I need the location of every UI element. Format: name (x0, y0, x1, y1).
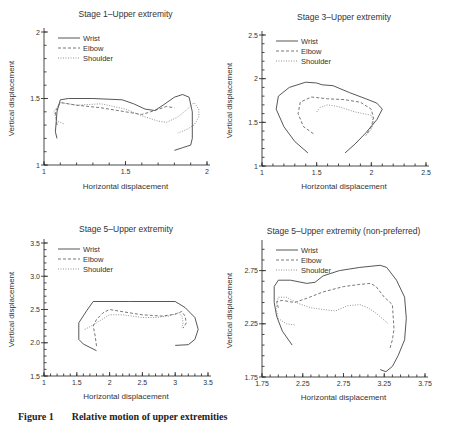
legend-label-shoulder: Shoulder (301, 57, 332, 66)
x-tick-label: 2 (205, 168, 209, 175)
x-tick-label: 2.25 (296, 380, 310, 387)
series-shoulder (85, 313, 183, 330)
y-tick-label: 3.0 (30, 273, 40, 280)
y-tick-label: 1 (254, 163, 258, 170)
legend-label-elbow: Elbow (301, 47, 322, 56)
series-wrist (276, 82, 382, 153)
x-tick-label: 1.5 (312, 169, 322, 176)
series-elbow (55, 103, 174, 126)
chart-title: Stage 5–Upper extremity (non-preferred) (267, 226, 421, 236)
y-tick-label: 1.75 (244, 374, 258, 381)
y-axis-label: Vertical displacement (7, 60, 16, 136)
y-tick-label: 2.75 (244, 267, 258, 274)
x-tick-label: 1.5 (121, 168, 131, 175)
chart-panel-4: Stage 5–Upper extremity (non-preferred)1… (225, 226, 432, 402)
series-wrist (55, 95, 192, 151)
x-tick-label: 1 (42, 168, 46, 175)
x-tick-label: 3.5 (203, 379, 213, 386)
y-tick-label: 2 (254, 75, 258, 82)
caption-label: Figure 1 (18, 411, 54, 422)
chart-title: Stage 1–Upper extremity (78, 9, 173, 19)
legend-label-shoulder: Shoulder (301, 266, 332, 275)
x-tick-label: 3 (173, 379, 177, 386)
legend-label-wrist: Wrist (301, 246, 319, 255)
x-axis-label: Horizontal displacement (83, 392, 169, 401)
y-tick-label: 2 (36, 29, 40, 36)
y-axis-label: Vertical displacement (225, 272, 234, 348)
series-elbow (298, 97, 373, 135)
legend-label-shoulder: Shoulder (83, 265, 114, 274)
y-tick-label: 1.5 (30, 95, 40, 102)
figure-caption: Figure 1Relative motion of upper extremi… (18, 411, 245, 422)
chart-title: Stage 3–Upper extremity (297, 12, 392, 22)
x-axis-label: Horizontal displacement (83, 182, 169, 191)
series-shoulder (276, 297, 388, 325)
legend-label-wrist: Wrist (301, 37, 319, 46)
x-tick-label: 1.75 (255, 380, 269, 387)
legend-label-wrist: Wrist (83, 34, 101, 43)
caption-text: Relative motion of upper extremities (72, 411, 228, 422)
chart-title: Stage 5–Upper extremity (79, 224, 174, 234)
x-tick-label: 2.5 (421, 169, 431, 176)
chart-panel-2: Stage 3–Upper extremity11.522.511.522.5H… (225, 12, 431, 191)
y-axis-label: Vertical displacement (7, 271, 16, 347)
y-tick-label: 2.5 (30, 306, 40, 313)
x-tick-label: 2.75 (337, 380, 351, 387)
legend-label-elbow: Elbow (83, 255, 104, 264)
x-tick-label: 1 (42, 379, 46, 386)
legend-label-elbow: Elbow (83, 44, 104, 53)
x-axis-label: Horizontal displacement (301, 182, 387, 191)
series-wrist (79, 302, 198, 351)
y-tick-label: 2.25 (244, 320, 258, 327)
y-tick-label: 2.5 (248, 32, 258, 39)
y-tick-label: 1 (36, 162, 40, 169)
x-tick-label: 1 (260, 169, 264, 176)
x-tick-label: 2 (108, 379, 112, 386)
y-tick-label: 1.5 (248, 119, 258, 126)
series-shoulder (54, 103, 199, 134)
legend-label-elbow: Elbow (301, 256, 322, 265)
y-tick-label: 3.5 (30, 240, 40, 247)
legend-label-wrist: Wrist (83, 245, 101, 254)
legend-label-shoulder: Shoulder (83, 54, 114, 63)
x-axis-label: Horizontal displacement (301, 393, 387, 402)
x-tick-label: 3.75 (418, 380, 432, 387)
x-tick-label: 3.25 (377, 380, 391, 387)
x-tick-label: 1.5 (72, 379, 82, 386)
series-shoulder (317, 105, 374, 135)
x-tick-label: 2 (369, 169, 373, 176)
series-wrist (274, 265, 406, 371)
x-tick-label: 2.5 (138, 379, 148, 386)
series-elbow (277, 283, 394, 348)
chart-panel-3: Stage 5–Upper extremity11.522.533.51.52.… (7, 224, 213, 401)
y-tick-label: 2.0 (30, 339, 40, 346)
figure-canvas: Stage 1–Upper extremity11.5211.52Horizon… (0, 0, 450, 424)
series-elbow (93, 310, 186, 347)
y-tick-label: 1.5 (30, 373, 40, 380)
y-axis-label: Vertical displacement (225, 62, 234, 138)
chart-panel-1: Stage 1–Upper extremity11.5211.52Horizon… (7, 9, 210, 191)
